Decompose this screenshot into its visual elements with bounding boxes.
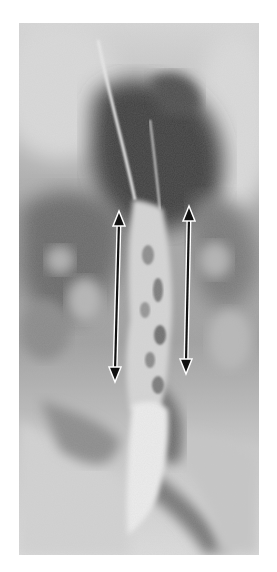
radiograph-canvas (19, 23, 259, 555)
radiograph-image (19, 23, 259, 555)
